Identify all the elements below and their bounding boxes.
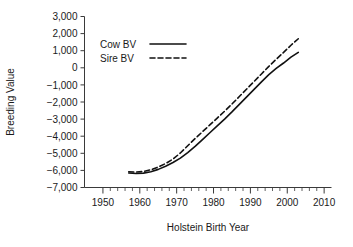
line-chart: 3,0002,0001,0000−1,000−2,000−3,000−4,000… — [0, 0, 353, 247]
x-tick-label: 1990 — [239, 197, 262, 208]
x-tick-label: 1980 — [202, 197, 225, 208]
y-axis-title: Breeding Value — [5, 68, 16, 136]
series-line-cow-bv — [129, 52, 299, 173]
x-tick-label: 1970 — [166, 197, 189, 208]
y-tick-label: −2,000 — [47, 97, 78, 108]
y-tick-label: 0 — [72, 62, 78, 73]
legend-label-cow-bv: Cow BV — [100, 39, 136, 50]
y-tick-label: −6,000 — [47, 165, 78, 176]
legend-label-sire-bv: Sire BV — [100, 53, 134, 64]
y-tick-label: 2,000 — [52, 28, 77, 39]
x-axis-title: Holstein Birth Year — [167, 222, 250, 233]
chart-figure: 3,0002,0001,0000−1,000−2,000−3,000−4,000… — [0, 0, 353, 247]
y-tick-label: −4,000 — [47, 131, 78, 142]
x-tick-label: 2010 — [313, 197, 336, 208]
y-tick-label: 3,000 — [52, 11, 77, 22]
y-tick-label: −1,000 — [47, 80, 78, 91]
y-tick-label: −5,000 — [47, 148, 78, 159]
x-tick-label: 1960 — [129, 197, 152, 208]
y-tick-label: 1,000 — [52, 45, 77, 56]
y-tick-label: −7,000 — [47, 182, 78, 193]
y-tick-label: −3,000 — [47, 114, 78, 125]
x-tick-label: 2000 — [276, 197, 299, 208]
x-tick-label: 1950 — [92, 197, 115, 208]
